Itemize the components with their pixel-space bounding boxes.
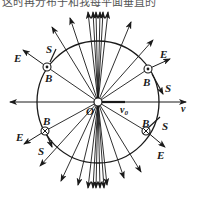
label-S: S: [46, 43, 52, 55]
label-B: B: [141, 117, 149, 129]
marker-lower-left: E S B: [15, 115, 52, 157]
marker-upper-left: E S B: [13, 43, 56, 84]
label-S: S: [162, 120, 168, 132]
field-lines-diagram: 这时再分布于和我每平面垂直的: [0, 0, 199, 201]
label-E: E: [156, 149, 164, 161]
label-E: E: [15, 131, 23, 143]
label-O: O: [86, 105, 94, 117]
label-S: S: [165, 82, 171, 94]
caption-fragment: 这时再分布于和我每平面垂直的: [2, 0, 156, 9]
label-v0: v0: [120, 104, 128, 117]
label-E: E: [159, 48, 167, 60]
label-E: E: [13, 52, 21, 64]
center-point: [94, 98, 102, 106]
label-B: B: [42, 115, 50, 127]
label-B: B: [142, 76, 150, 88]
label-S: S: [38, 145, 44, 157]
label-B: B: [44, 72, 52, 84]
label-v: v: [181, 103, 186, 114]
